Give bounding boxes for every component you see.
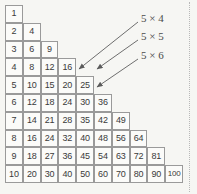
table-cell: 8 [5, 130, 23, 148]
table-cell: 8 [23, 58, 41, 76]
table-cell: 30 [41, 165, 59, 183]
page-edge-rule [189, 2, 190, 192]
multiplication-table-figure: 1243694812165101520256121824303671421283… [0, 0, 197, 194]
table-cell: 9 [41, 41, 59, 59]
table-cell: 28 [58, 112, 76, 130]
table-cell: 49 [112, 112, 130, 130]
table-cell: 24 [58, 94, 76, 112]
table-cell: 100 [165, 165, 183, 183]
table-cell: 21 [41, 112, 59, 130]
annotation-label: 5 × 6 [141, 50, 164, 61]
table-cell: 36 [94, 94, 112, 112]
table-cell: 7 [5, 112, 23, 130]
table-cell: 15 [41, 76, 59, 94]
table-cell: 70 [112, 165, 130, 183]
table-cell: 24 [41, 130, 59, 148]
table-cell: 56 [112, 130, 130, 148]
annotation-label: 5 × 5 [141, 31, 164, 42]
table-cell: 54 [94, 147, 112, 165]
table-cell: 20 [23, 165, 41, 183]
annotation-label: 5 × 4 [141, 13, 164, 24]
table-cell: 12 [41, 58, 59, 76]
table-cell: 10 [23, 76, 41, 94]
table-cell: 64 [130, 130, 148, 148]
table-cell: 18 [41, 94, 59, 112]
table-cell: 30 [76, 94, 94, 112]
table-cell: 50 [76, 165, 94, 183]
table-cell: 10 [5, 165, 23, 183]
table-cell: 14 [23, 112, 41, 130]
table-cell: 4 [5, 58, 23, 76]
table-cell: 6 [23, 41, 41, 59]
table-cell: 9 [5, 147, 23, 165]
table-cell: 6 [5, 94, 23, 112]
table-cell: 4 [23, 23, 41, 41]
table-cell: 32 [58, 130, 76, 148]
table-cell: 20 [58, 76, 76, 94]
table-cell: 27 [41, 147, 59, 165]
table-cell: 1 [5, 5, 23, 23]
multiplication-grid: 1243694812165101520256121824303671421283… [0, 0, 197, 194]
table-cell: 5 [5, 76, 23, 94]
table-cell: 90 [147, 165, 165, 183]
table-cell: 36 [58, 147, 76, 165]
table-cell: 25 [76, 76, 94, 94]
table-cell: 40 [76, 130, 94, 148]
table-cell: 42 [94, 112, 112, 130]
table-cell: 60 [94, 165, 112, 183]
table-cell: 16 [58, 58, 76, 76]
table-cell: 12 [23, 94, 41, 112]
table-cell: 3 [5, 41, 23, 59]
table-cell: 80 [130, 165, 148, 183]
table-cell: 45 [76, 147, 94, 165]
table-cell: 81 [147, 147, 165, 165]
table-cell: 35 [76, 112, 94, 130]
table-cell: 72 [130, 147, 148, 165]
table-cell: 40 [58, 165, 76, 183]
table-cell: 63 [112, 147, 130, 165]
table-cell: 18 [23, 147, 41, 165]
table-cell: 16 [23, 130, 41, 148]
table-cell: 48 [94, 130, 112, 148]
table-cell: 2 [5, 23, 23, 41]
